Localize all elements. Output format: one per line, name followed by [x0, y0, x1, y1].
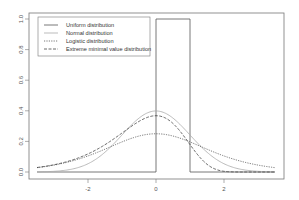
legend-label: Extreme minimal value distribution [66, 46, 151, 52]
x-tick-label: 2 [222, 186, 226, 192]
y-tick-label: 0.8 [18, 45, 24, 54]
density-chart: 0.00.20.40.60.81.0 -202 Uniform distribu… [0, 0, 299, 200]
legend-label: Uniform distribution [66, 22, 114, 28]
y-tick-label: 0.2 [18, 137, 24, 146]
y-axis: 0.00.20.40.60.81.0 [18, 14, 29, 176]
y-tick-label: 0.0 [18, 167, 24, 176]
y-tick-label: 0.4 [18, 106, 24, 115]
y-tick-label: 0.6 [18, 75, 24, 84]
y-tick-label: 1.0 [18, 14, 24, 23]
x-tick-label: 0 [154, 186, 158, 192]
legend-label: Logistic distribution [66, 38, 114, 44]
legend: Uniform distributionNormal distributionL… [38, 17, 151, 56]
legend-label: Normal distribution [66, 30, 113, 36]
x-axis: -202 [85, 179, 226, 192]
x-tick-label: -2 [85, 186, 91, 192]
